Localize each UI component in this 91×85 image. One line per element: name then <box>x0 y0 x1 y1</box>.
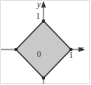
vertex-dot-top <box>42 19 45 22</box>
x-axis-tick-label-1: 1 <box>69 52 73 60</box>
y-axis-label: y <box>37 1 41 9</box>
x-axis-label: x <box>80 45 84 53</box>
coordinate-plot <box>0 0 91 85</box>
y-axis-tick-label-1: 1 <box>36 13 40 21</box>
origin-label: 0 <box>37 51 41 59</box>
diamond-region <box>16 21 71 78</box>
figure-container: y x 1 1 0 <box>0 0 91 85</box>
vertex-dot-bottom <box>42 76 45 79</box>
y-axis-arrow-icon <box>41 1 46 8</box>
vertex-dot-left <box>14 48 17 51</box>
